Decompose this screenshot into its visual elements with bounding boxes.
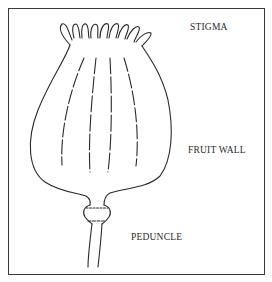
peduncle (84, 205, 111, 267)
stigma-crown (60, 24, 151, 46)
fruit-wall (30, 45, 171, 205)
label-stigma: STIGMA (190, 22, 228, 32)
label-fruit-wall: FRUIT WALL (188, 145, 246, 155)
label-peduncle: PEDUNCLE (131, 232, 182, 242)
